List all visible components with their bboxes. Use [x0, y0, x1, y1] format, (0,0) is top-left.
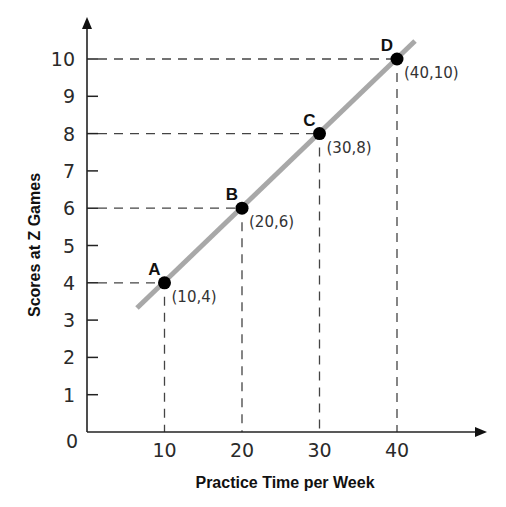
point-label: D [381, 36, 393, 55]
y-axis-ticks: 12345678910 [51, 48, 98, 406]
y-axis-arrow-icon [82, 17, 92, 29]
x-axis-label: Practice Time per Week [195, 474, 374, 491]
y-tick-label: 6 [63, 197, 75, 219]
y-tick-label: 5 [63, 235, 75, 257]
point-label: B [226, 185, 238, 204]
dashed-guide-lines [98, 59, 397, 432]
y-tick-label: 4 [63, 272, 75, 294]
point-coordinate: (10,4) [172, 288, 217, 306]
y-tick-label: 10 [51, 48, 75, 70]
point-label: C [303, 111, 315, 130]
y-axis-label: Scores at Z Games [26, 173, 43, 317]
origin-label: 0 [66, 430, 78, 452]
x-tick-label: 20 [230, 439, 254, 461]
y-tick-label: 3 [63, 309, 75, 331]
x-axis-ticks: 10203040 [152, 439, 409, 461]
point-coordinate: (30,8) [327, 139, 372, 157]
y-tick-label: 1 [63, 384, 75, 406]
y-tick-label: 7 [63, 160, 75, 182]
trend-line [137, 41, 415, 308]
x-tick-label: 40 [385, 439, 409, 461]
y-tick-label: 2 [63, 346, 75, 368]
line-chart: 12345678910 10203040 0 A(10,4)B(20,6)C(3… [0, 0, 506, 507]
point-coordinate: (20,6) [249, 213, 294, 231]
point-coordinate: (40,10) [404, 64, 459, 82]
x-tick-label: 30 [307, 439, 331, 461]
y-tick-label: 8 [63, 123, 75, 145]
point-label: A [148, 260, 160, 279]
x-tick-label: 10 [152, 439, 176, 461]
y-tick-label: 9 [63, 85, 75, 107]
x-axis-arrow-icon [475, 427, 487, 437]
data-points: A(10,4)B(20,6)C(30,8)D(40,10) [148, 36, 458, 306]
